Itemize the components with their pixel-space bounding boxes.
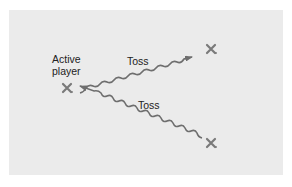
diagram-canvas [0, 0, 292, 187]
toss-label-outgoing: Toss [127, 55, 149, 67]
active-player-label: Active player [52, 53, 102, 77]
target-top-x-icon [207, 45, 217, 54]
target-bottom-x-icon [207, 139, 217, 148]
toss-arrow-incoming [80, 86, 202, 138]
active-player-label-line1: Active [52, 53, 102, 65]
toss-label-incoming: Toss [138, 99, 160, 111]
active-player-x-icon [63, 84, 73, 93]
active-player-label-line2: player [52, 65, 102, 77]
